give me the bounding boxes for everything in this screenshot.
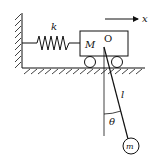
wheel-right (112, 57, 123, 68)
diagram-canvas: k M O x l θ m (0, 0, 162, 166)
bob-mass-label: m (126, 142, 134, 151)
spring-constant-label: k (51, 21, 57, 32)
length-label: l (121, 89, 124, 100)
floor (22, 68, 145, 74)
spring (22, 36, 80, 50)
angle-arc (104, 111, 121, 114)
pivot-label: O (104, 33, 112, 44)
x-axis-label: x (142, 13, 148, 24)
cart-mass-label: M (84, 39, 96, 50)
wheel-left (85, 57, 96, 68)
pendulum-rod (104, 47, 128, 139)
angle-label: θ (109, 116, 115, 127)
wall (15, 13, 22, 68)
